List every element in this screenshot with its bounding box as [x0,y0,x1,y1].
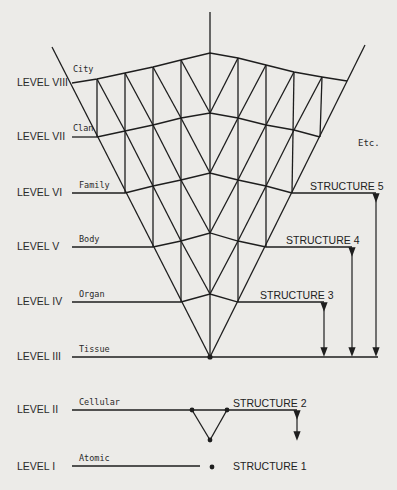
tag-cellular: Cellular [79,397,120,407]
level-v-label: LEVEL V [17,240,59,252]
tag-clan: Clan [73,123,93,133]
level-iv-label: LEVEL IV [17,295,62,307]
structure-1-label: STRUCTURE 1 [233,460,307,472]
tag-tissue: Tissue [79,344,110,354]
structure-2-label: STRUCTURE 2 [233,397,307,409]
level-ii-label: LEVEL II [17,403,58,415]
level-iii-label: LEVEL III [17,350,61,362]
level-vii-label: LEVEL VII [17,130,65,142]
structure-5-label: STRUCTURE 5 [310,180,384,192]
level-vi-label: LEVEL VI [17,186,62,198]
tag-atomic: Atomic [79,453,110,463]
level-viii-label: LEVEL VIII [17,76,68,88]
etc-label: Etc. [358,138,380,148]
tag-family: Family [79,180,110,190]
tag-city: City [73,64,93,74]
tag-body: Body [79,234,99,244]
tag-organ: Organ [79,289,105,299]
hierarchy-diagram: LEVEL VIII LEVEL VII LEVEL VI LEVEL V LE… [0,0,397,490]
structure-3-label: STRUCTURE 3 [260,289,334,301]
level-i-label: LEVEL I [17,460,55,472]
structure-4-label: STRUCTURE 4 [286,234,360,246]
